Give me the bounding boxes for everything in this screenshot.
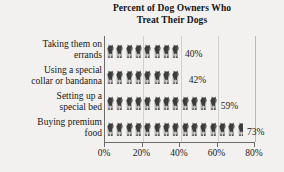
dog-icon bbox=[134, 44, 143, 59]
x-tick-label-60pct: 60% bbox=[197, 148, 237, 159]
dog-icon bbox=[115, 96, 124, 111]
dog-icon bbox=[115, 70, 124, 85]
dog-icon bbox=[125, 122, 134, 137]
dog-icon bbox=[237, 122, 243, 137]
value-label-taking-them-on-errands: 40% bbox=[185, 49, 202, 60]
dog-icon bbox=[134, 70, 143, 85]
dog-icon bbox=[227, 122, 236, 137]
x-tick-80pct bbox=[254, 142, 255, 147]
dog-icon bbox=[218, 122, 227, 137]
dog-icon bbox=[153, 70, 162, 85]
x-tick-60pct bbox=[217, 142, 218, 147]
chart-title-line-2: Treat Their Dogs bbox=[74, 15, 270, 27]
chart-title: Percent of Dog Owners Who Treat Their Do… bbox=[74, 3, 270, 26]
category-label-using-a-special-collar-or-bandanna: Using a special collar or bandanna bbox=[1, 65, 105, 86]
dog-icon bbox=[199, 96, 208, 111]
bar-setting-up-a-special-bed bbox=[106, 96, 217, 111]
dog-icon bbox=[115, 44, 124, 59]
dog-icon bbox=[153, 96, 162, 111]
category-label-line-1: Using a special bbox=[1, 65, 102, 76]
dog-icon bbox=[143, 44, 152, 59]
dog-icon bbox=[209, 96, 217, 111]
dog-icon bbox=[143, 70, 152, 85]
dog-icon bbox=[190, 122, 199, 137]
dog-icon bbox=[171, 96, 180, 111]
x-tick-label-0pct: 0% bbox=[84, 148, 124, 159]
x-tick-20pct bbox=[142, 142, 143, 147]
dog-icon bbox=[181, 96, 190, 111]
value-label-setting-up-a-special-bed: 59% bbox=[221, 101, 238, 112]
plot-area: Taking them on errands 40% Using a speci… bbox=[104, 36, 255, 142]
dog-icon bbox=[162, 44, 171, 59]
category-label-taking-them-on-errands: Taking them on errands bbox=[1, 39, 105, 60]
dog-icon bbox=[199, 122, 208, 137]
dog-icon bbox=[115, 122, 124, 137]
category-label-setting-up-a-special-bed: Setting up a special bed bbox=[1, 91, 105, 112]
category-label-line-1: Taking them on bbox=[1, 39, 102, 50]
dog-icon bbox=[190, 96, 199, 111]
category-label-line-2: collar or bandanna bbox=[1, 75, 102, 86]
category-label-line-2: food bbox=[1, 127, 102, 138]
bar-using-a-special-collar-or-bandanna bbox=[106, 70, 185, 85]
category-label-line-2: errands bbox=[1, 49, 102, 60]
x-tick-label-40pct: 40% bbox=[159, 148, 199, 159]
dog-icon bbox=[143, 96, 152, 111]
value-label-buying-premium-food: 73% bbox=[247, 127, 264, 138]
category-label-line-2: special bed bbox=[1, 101, 102, 112]
dog-icon bbox=[125, 96, 134, 111]
dog-icon bbox=[125, 44, 134, 59]
bar-taking-them-on-errands bbox=[106, 44, 181, 59]
dog-icon bbox=[153, 44, 162, 59]
category-label-line-1: Setting up a bbox=[1, 91, 102, 102]
dog-icon bbox=[106, 96, 115, 111]
dog-icon bbox=[171, 122, 180, 137]
chart-title-line-1: Percent of Dog Owners Who bbox=[74, 3, 270, 15]
dog-icon bbox=[209, 122, 218, 137]
dog-icon bbox=[153, 122, 162, 137]
dog-icon bbox=[162, 70, 171, 85]
dog-icon bbox=[162, 96, 171, 111]
category-label-buying-premium-food: Buying premium food bbox=[1, 117, 105, 138]
dog-icon bbox=[106, 122, 115, 137]
dog-icon bbox=[143, 122, 152, 137]
dog-icon bbox=[181, 122, 190, 137]
value-label-using-a-special-collar-or-bandanna: 42% bbox=[189, 75, 206, 86]
x-tick-0pct bbox=[104, 142, 105, 147]
dog-icon bbox=[171, 70, 180, 85]
dog-icon bbox=[106, 44, 115, 59]
x-tick-label-80pct: 80% bbox=[234, 148, 274, 159]
dog-icon bbox=[134, 122, 143, 137]
x-tick-label-20pct: 20% bbox=[122, 148, 162, 159]
category-label-line-1: Buying premium bbox=[1, 117, 102, 128]
dog-icon bbox=[106, 70, 115, 85]
dog-icon bbox=[134, 96, 143, 111]
bar-buying-premium-food bbox=[106, 122, 243, 137]
dog-icon bbox=[125, 70, 134, 85]
x-tick-40pct bbox=[179, 142, 180, 147]
dog-icon bbox=[171, 44, 180, 59]
chart-container: Percent of Dog Owners Who Treat Their Do… bbox=[0, 0, 284, 172]
dog-icon bbox=[162, 122, 171, 137]
